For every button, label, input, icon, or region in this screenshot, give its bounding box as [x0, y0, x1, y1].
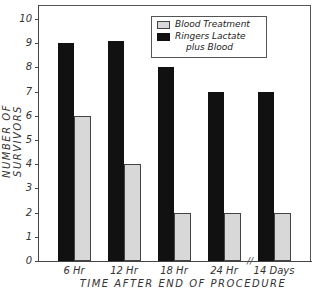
y-tick — [35, 164, 39, 165]
y-tick — [35, 261, 39, 262]
legend-label-blood-treatment: Blood Treatment — [175, 19, 250, 29]
bar — [174, 213, 191, 261]
y-tick-label: 9 — [12, 37, 32, 48]
bar — [124, 164, 141, 261]
y-tick — [35, 237, 39, 238]
y-tick — [35, 19, 39, 20]
legend-swatch-ringers-lactate — [157, 33, 170, 41]
y-tick-label: 10 — [12, 13, 32, 24]
legend-swatch-blood-treatment — [157, 21, 170, 29]
y-tick — [35, 92, 39, 93]
y-tick — [35, 140, 39, 141]
bar — [208, 92, 224, 261]
bar — [158, 67, 174, 261]
y-tick-label: 0 — [12, 255, 32, 266]
y-tick — [35, 116, 39, 117]
bar — [224, 213, 241, 261]
bar — [258, 92, 274, 261]
bar — [274, 213, 291, 261]
y-tick-label: 1 — [12, 231, 32, 242]
legend: Blood Treatment Ringers Lactate plus Blo… — [151, 16, 267, 58]
bar — [108, 41, 124, 261]
bar — [74, 116, 91, 261]
y-tick — [35, 43, 39, 44]
y-tick — [35, 67, 39, 68]
x-tick-label: 14 Days — [244, 265, 304, 276]
bar — [58, 43, 74, 261]
legend-label-plus-blood: plus Blood — [186, 42, 233, 52]
x-axis-title: TIME AFTER END OF PROCEDURE — [58, 278, 308, 289]
legend-label-ringers-lactate: Ringers Lactate — [175, 31, 246, 41]
axis-break-mark: // — [247, 256, 253, 266]
y-tick — [35, 213, 39, 214]
y-tick — [35, 188, 39, 189]
x-axis — [38, 261, 312, 262]
y-axis-title: NUMBER OF SURVIVORS — [1, 71, 23, 211]
